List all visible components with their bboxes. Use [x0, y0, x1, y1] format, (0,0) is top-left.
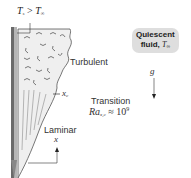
- boundary-layer-diagram: [0, 0, 191, 178]
- ra-exponent: 9: [126, 106, 129, 112]
- surface-condition-label: Ts > T∞: [17, 5, 44, 16]
- xc-subscript: c: [66, 93, 68, 98]
- transition-criterion: Rax,c ≈ 109: [89, 106, 129, 117]
- gravity-arrowhead: [152, 94, 156, 99]
- laminar-label: Laminar: [44, 125, 77, 135]
- ra-approx-value: ≈ 10: [106, 106, 127, 117]
- gt-operator: >: [25, 5, 36, 16]
- quiescent-fluid-callout: Quiescent fluid, T∞: [132, 28, 179, 53]
- x-axis: [28, 150, 57, 163]
- callout-line1: Quiescent: [136, 30, 175, 40]
- ra-symbol: Ra: [89, 106, 100, 117]
- tinf-subscript: ∞: [41, 11, 45, 16]
- callout-fluid-text: fluid,: [141, 40, 162, 49]
- transition-label: Transition: [91, 96, 130, 106]
- gravity-label: g: [150, 66, 155, 76]
- callout-inf-subscript: ∞: [166, 43, 170, 49]
- x-axis-arrowhead: [55, 147, 59, 152]
- x-axis-label: x: [54, 134, 58, 144]
- critical-position-label: xc: [62, 88, 68, 98]
- turbulent-label: Turbulent: [70, 57, 108, 67]
- callout-line2: fluid, T∞: [136, 40, 175, 51]
